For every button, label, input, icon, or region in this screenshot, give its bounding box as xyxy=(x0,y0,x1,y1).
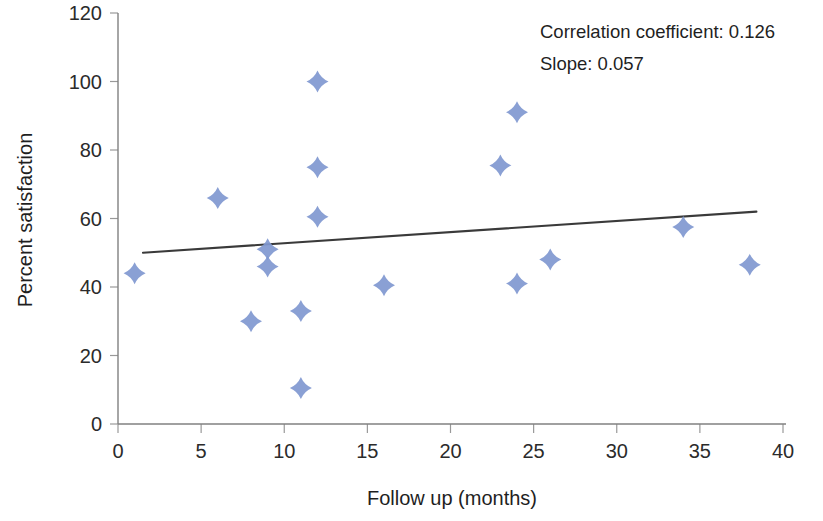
y-axis-title: Percent satisfaction xyxy=(14,133,36,308)
data-point-marker xyxy=(506,273,528,295)
correlation-coefficient-annotation: Correlation coefficient: 0.126 xyxy=(540,21,775,42)
x-tick-label: 15 xyxy=(356,440,378,462)
data-point-marker xyxy=(489,154,511,176)
x-tick-label: 10 xyxy=(273,440,295,462)
data-point-marker xyxy=(290,300,312,322)
x-tick-label: 0 xyxy=(112,440,123,462)
x-axis-title: Follow up (months) xyxy=(367,487,537,509)
x-tick-label: 25 xyxy=(523,440,545,462)
plot-area: 020406080100120 0510152025303540 Percent… xyxy=(0,0,823,521)
y-tick-label: 40 xyxy=(80,276,102,298)
y-tick-label: 0 xyxy=(91,413,102,435)
slope-annotation: Slope: 0.057 xyxy=(540,53,644,74)
y-tick-label: 20 xyxy=(80,345,102,367)
data-point-marker xyxy=(290,377,312,399)
data-point-marker xyxy=(373,274,395,296)
data-point-marker xyxy=(739,254,761,276)
x-tick-label: 30 xyxy=(606,440,628,462)
x-tick-label: 5 xyxy=(196,440,207,462)
x-tick-label: 40 xyxy=(772,440,794,462)
x-tick-label: 35 xyxy=(689,440,711,462)
y-axis-tick-labels: 020406080100120 xyxy=(69,2,102,435)
data-point-group xyxy=(124,71,761,400)
data-point-marker xyxy=(307,71,329,93)
data-point-marker xyxy=(124,262,146,284)
y-tick-label: 120 xyxy=(69,2,102,24)
data-point-marker xyxy=(506,101,528,123)
data-point-marker xyxy=(207,187,229,209)
data-point-marker xyxy=(672,216,694,238)
y-tick-label: 60 xyxy=(80,208,102,230)
scatter-chart: 020406080100120 0510152025303540 Percent… xyxy=(0,0,823,521)
trend-line xyxy=(143,212,756,253)
data-point-marker xyxy=(240,310,262,332)
y-tick-label: 100 xyxy=(69,71,102,93)
x-axis-tick-labels: 0510152025303540 xyxy=(112,440,794,462)
x-tick-label: 20 xyxy=(439,440,461,462)
y-axis-ticks xyxy=(110,13,118,424)
data-point-marker xyxy=(539,249,561,271)
y-tick-label: 80 xyxy=(80,139,102,161)
data-point-marker xyxy=(307,206,329,228)
data-point-marker xyxy=(307,156,329,178)
x-axis-ticks xyxy=(118,424,783,433)
data-point-marker xyxy=(257,255,279,277)
